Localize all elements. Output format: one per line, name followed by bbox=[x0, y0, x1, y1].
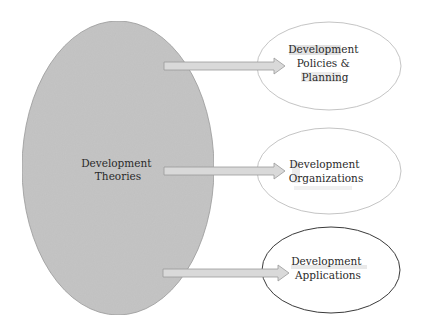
target-label-line: Development bbox=[289, 158, 360, 170]
source-label-line-2: Theories bbox=[95, 170, 141, 182]
target-label-line: Applications bbox=[294, 269, 361, 281]
source-label-line-1: Development bbox=[81, 157, 152, 169]
target-label-line: Development bbox=[288, 43, 359, 55]
target-label-line: Planning bbox=[301, 71, 348, 83]
target-label-line: Policies & bbox=[297, 57, 350, 69]
target-label-line: Organizations bbox=[289, 172, 364, 184]
text-highlight bbox=[294, 186, 352, 190]
target-label-line: Development bbox=[291, 255, 362, 267]
diagram-canvas: Development Theories Development Policie… bbox=[0, 0, 421, 333]
